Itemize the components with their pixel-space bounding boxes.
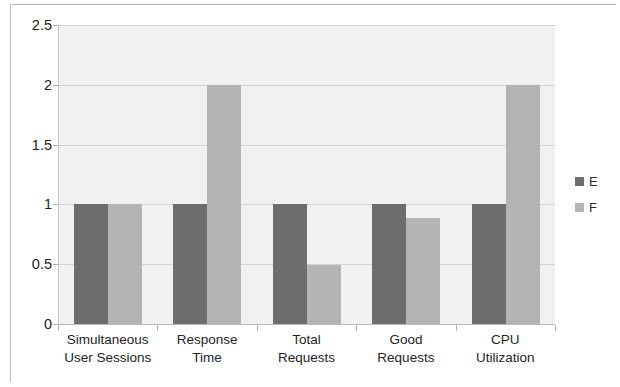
y-axis-tick-label: 0: [6, 317, 52, 332]
bar-e: [173, 204, 207, 324]
bar-group: [257, 25, 356, 324]
x-axis-category-label: GoodRequests: [352, 331, 460, 367]
x-axis-category-label-line: Total: [253, 331, 361, 349]
x-axis-category-label-line: Time: [153, 349, 261, 367]
bar-f: [506, 85, 540, 324]
chart-legend: EF: [575, 168, 620, 220]
y-axis: 00.511.522.5: [0, 0, 52, 387]
y-axis-tick-label: 1: [6, 197, 52, 212]
legend-item-e[interactable]: E: [575, 168, 620, 194]
x-axis-category-label-line: Utilization: [451, 349, 559, 367]
legend-swatch-icon: [575, 177, 584, 186]
bar-f: [307, 265, 341, 324]
x-axis-baseline: [58, 324, 555, 325]
bar-e: [472, 204, 506, 324]
x-axis-category-label-line: User Sessions: [54, 349, 162, 367]
x-axis-category-label-line: Requests: [253, 349, 361, 367]
x-axis-category-label-line: CPU: [451, 331, 559, 349]
legend-swatch-icon: [575, 203, 584, 212]
bar-e: [372, 204, 406, 324]
x-axis-category-label: TotalRequests: [253, 331, 361, 367]
y-axis-tick-label: 0.5: [6, 257, 52, 272]
y-axis-tick-label: 2: [6, 78, 52, 93]
x-axis-category-label: CPUUtilization: [451, 331, 559, 367]
x-axis-category-label-line: Simultaneous: [54, 331, 162, 349]
bar-e: [74, 204, 108, 324]
bar-group: [356, 25, 455, 324]
bar-chart-figure: 00.511.522.5 EF SimultaneousUser Session…: [0, 0, 620, 387]
x-axis-category-label-line: Response: [153, 331, 261, 349]
bar-f: [207, 85, 241, 324]
x-axis-category-label: ResponseTime: [153, 331, 261, 367]
x-axis-category-label: SimultaneousUser Sessions: [54, 331, 162, 367]
bar-group: [456, 25, 555, 324]
legend-label: E: [589, 175, 598, 188]
bar-group: [58, 25, 157, 324]
legend-item-f[interactable]: F: [575, 194, 620, 220]
y-axis-tick-label: 1.5: [6, 137, 52, 152]
x-axis-category-label-line: Requests: [352, 349, 460, 367]
x-axis-category-label-line: Good: [352, 331, 460, 349]
page-rule-top: [12, 4, 616, 5]
bar-f: [108, 204, 142, 324]
bar-f: [406, 218, 440, 324]
bar-group: [157, 25, 256, 324]
y-axis-tick-label: 2.5: [6, 18, 52, 33]
bar-e: [273, 204, 307, 324]
legend-label: F: [589, 201, 597, 214]
